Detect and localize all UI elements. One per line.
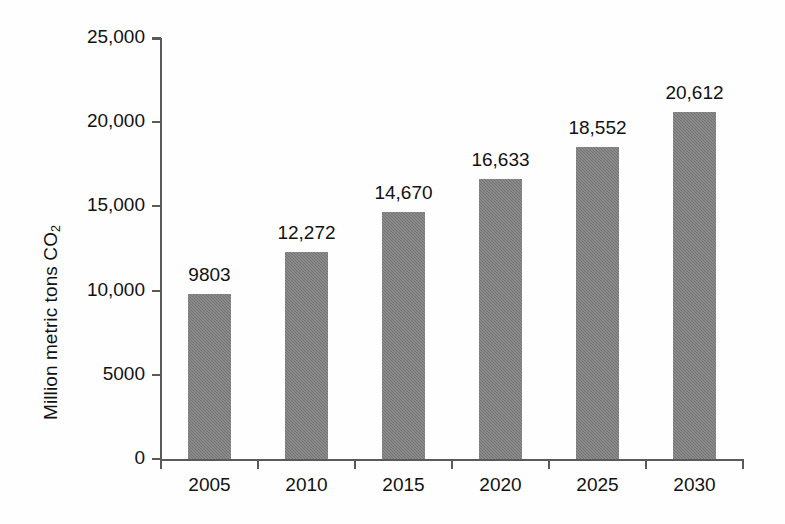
x-axis-category-label: 2020 — [446, 474, 556, 496]
bar-value-label: 16,633 — [446, 149, 556, 171]
y-axis-tick — [152, 290, 161, 292]
x-axis-end-cap — [160, 459, 162, 469]
y-axis-tick-label: 15,000 — [55, 194, 145, 216]
bar-value-label: 12,272 — [252, 222, 362, 244]
x-axis-end-cap — [742, 459, 744, 469]
y-axis-tick-label: 20,000 — [55, 110, 145, 132]
bar-2025 — [576, 147, 619, 459]
x-axis-tick — [354, 459, 356, 469]
x-axis-tick — [257, 459, 259, 469]
x-axis-category-label: 2030 — [640, 474, 750, 496]
bar-2015 — [382, 212, 425, 459]
x-axis-tick — [645, 459, 647, 469]
y-axis-line — [160, 38, 162, 461]
x-axis-tick — [548, 459, 550, 469]
bar-2020 — [479, 179, 522, 459]
x-axis-category-label: 2025 — [543, 474, 653, 496]
y-axis-title-subscript: 2 — [49, 225, 63, 232]
y-axis-tick — [152, 37, 161, 39]
x-axis-category-label: 2005 — [155, 474, 265, 496]
y-axis-tick — [152, 205, 161, 207]
x-axis-tick — [451, 459, 453, 469]
bar-2030 — [673, 112, 716, 459]
x-axis-category-label: 2010 — [252, 474, 362, 496]
bar-2010 — [285, 252, 328, 459]
bar-value-label: 9803 — [155, 264, 265, 286]
bar-value-label: 14,670 — [349, 182, 459, 204]
y-axis-tick-label: 10,000 — [55, 279, 145, 301]
x-axis-category-label: 2015 — [349, 474, 459, 496]
y-axis-title-text: Million metric tons CO — [40, 232, 61, 420]
bar-value-label: 20,612 — [640, 82, 750, 104]
y-axis-tick-label: 5000 — [55, 363, 145, 385]
bar-2005 — [188, 294, 231, 459]
y-axis-tick-label: 0 — [55, 447, 145, 469]
y-axis-tick — [152, 121, 161, 123]
bar-chart: Million metric tons CO2 0500010,00015,00… — [0, 0, 785, 524]
y-axis-tick — [152, 374, 161, 376]
bar-value-label: 18,552 — [543, 117, 653, 139]
y-axis-tick-label: 25,000 — [55, 26, 145, 48]
